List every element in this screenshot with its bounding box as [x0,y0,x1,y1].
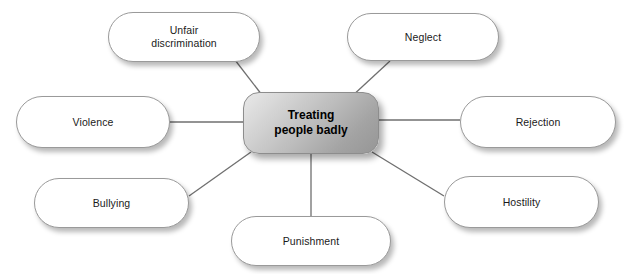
branch-node-label-neglect: Neglect [395,31,451,44]
branch-node-label-hostility: Hostility [493,196,551,209]
connector-hostility [372,152,444,196]
branch-node-hostility[interactable]: Hostility [444,176,599,228]
branch-node-label-bullying: Bullying [83,197,141,210]
branch-node-label-violence: Violence [63,116,124,129]
branch-node-label-rejection: Rejection [506,116,571,129]
branch-node-violence[interactable]: Violence [16,96,170,148]
connector-unfair-discrimination [235,60,262,95]
center-node-treating-people-badly[interactable]: Treating people badly [243,92,379,154]
mindmap-diagram: Treating people badly Unfair discriminat… [0,0,628,274]
branch-node-unfair-discrimination[interactable]: Unfair discrimination [108,12,260,62]
branch-node-rejection[interactable]: Rejection [460,96,616,148]
branch-node-punishment[interactable]: Punishment [231,216,391,266]
branch-node-label-punishment: Punishment [273,235,349,248]
branch-node-bullying[interactable]: Bullying [34,178,189,228]
connector-bullying [189,152,251,196]
center-node-label: Treating people badly [268,108,353,138]
branch-node-neglect[interactable]: Neglect [347,13,499,61]
branch-node-label-unfair-discrimination: Unfair discrimination [141,24,227,50]
